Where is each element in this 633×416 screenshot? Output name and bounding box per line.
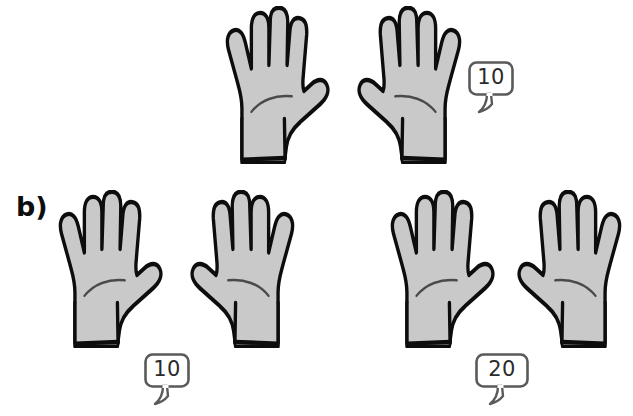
- figure-canvas: b) 10 10: [0, 0, 633, 416]
- hand-top-2: [350, 6, 468, 164]
- bubble-top: 10: [467, 60, 515, 116]
- part-label-b: b): [16, 191, 48, 222]
- hand-top-1: [219, 6, 337, 164]
- hand-bottom-right-2: [510, 190, 628, 348]
- hand-bottom-right-1: [384, 190, 502, 348]
- bubble-bottom-left: 10: [143, 352, 191, 408]
- hand-bottom-left-2: [183, 190, 301, 348]
- hand-bottom-left-1: [52, 190, 170, 348]
- bubble-bottom-right: 20: [474, 352, 530, 408]
